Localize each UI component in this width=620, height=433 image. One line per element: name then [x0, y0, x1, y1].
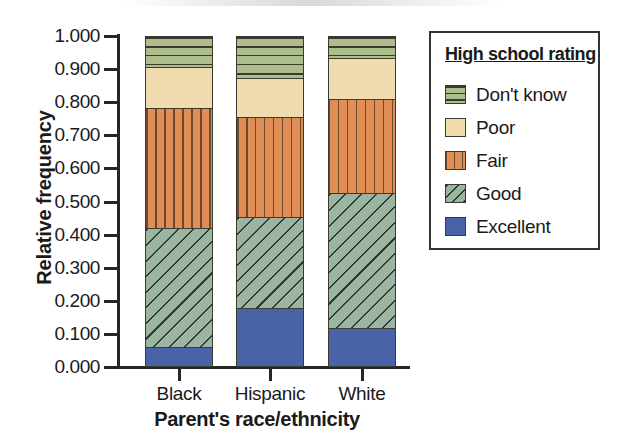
y-tick-label: 0.900: [34, 58, 100, 80]
y-tick-label: 0.300: [34, 257, 100, 279]
y-tick-label: 0.700: [34, 124, 100, 146]
chart-legend: High school rating Don't know Poor Fair …: [429, 31, 600, 250]
y-tick-label: 0.200: [34, 290, 100, 312]
legend-swatch-excellent-icon: [445, 217, 466, 236]
x-axis-label: Parent's race/ethnicity: [104, 408, 410, 431]
y-tick-label: 0.000: [34, 356, 100, 378]
legend-item-poor[interactable]: Poor: [445, 111, 598, 144]
y-tick-label: 0.800: [34, 91, 100, 113]
legend-item-excellent[interactable]: Excellent: [445, 210, 598, 243]
bar-hispanic[interactable]: [236, 36, 304, 367]
segment-white-dont-know[interactable]: [329, 37, 395, 59]
y-tick-label: 0.100: [34, 323, 100, 345]
legend-title: High school rating: [445, 44, 598, 65]
segment-black-good[interactable]: [146, 229, 212, 348]
scan-artifact: [120, 0, 500, 6]
y-tick-mark: [104, 300, 118, 303]
y-tick-label: 0.400: [34, 224, 100, 246]
y-tick-mark: [104, 101, 118, 104]
bar-black[interactable]: [145, 36, 213, 367]
y-tick-mark: [104, 333, 118, 336]
segment-black-dont-know[interactable]: [146, 37, 212, 68]
segment-hispanic-poor[interactable]: [237, 79, 303, 118]
legend-item-dont-know[interactable]: Don't know: [445, 78, 598, 111]
segment-hispanic-fair[interactable]: [237, 118, 303, 218]
y-tick-label: 0.600: [34, 157, 100, 179]
segment-black-fair[interactable]: [146, 109, 212, 229]
legend-label-poor: Poor: [476, 117, 515, 139]
segment-hispanic-good[interactable]: [237, 218, 303, 309]
legend-item-fair[interactable]: Fair: [445, 144, 598, 177]
y-tick-mark: [104, 68, 118, 71]
segment-white-poor[interactable]: [329, 59, 395, 100]
segment-black-poor[interactable]: [146, 68, 212, 109]
y-tick-mark: [104, 167, 118, 170]
legend-label-good: Good: [476, 183, 521, 205]
y-tick-mark: [104, 134, 118, 137]
x-tick-label-white: White: [302, 383, 422, 405]
segment-hispanic-dont-know[interactable]: [237, 37, 303, 79]
segment-hispanic-excellent[interactable]: [237, 309, 303, 367]
legend-swatch-fair-icon: [445, 151, 466, 170]
segment-black-excellent[interactable]: [146, 348, 212, 367]
y-tick-mark: [104, 35, 118, 38]
legend-swatch-good-icon: [445, 184, 466, 203]
stacked-bar-chart: Relative frequency 0.000 0.100 0.200 0.3…: [0, 0, 620, 433]
bar-white[interactable]: [328, 36, 396, 367]
x-tick-mark: [178, 369, 181, 381]
legend-label-fair: Fair: [476, 150, 508, 172]
legend-item-good[interactable]: Good: [445, 177, 598, 210]
x-tick-mark: [361, 369, 364, 381]
legend-label-dont-know: Don't know: [476, 84, 566, 106]
legend-label-excellent: Excellent: [476, 216, 550, 238]
y-tick-label: 0.500: [34, 191, 100, 213]
y-tick-mark: [104, 366, 118, 369]
y-tick-mark: [104, 234, 118, 237]
segment-white-excellent[interactable]: [329, 329, 395, 367]
segment-white-good[interactable]: [329, 194, 395, 329]
y-tick-label: 1.000: [34, 25, 100, 47]
segment-white-fair[interactable]: [329, 100, 395, 194]
y-tick-mark: [104, 201, 118, 204]
legend-swatch-dont-know-icon: [445, 85, 466, 104]
x-tick-mark: [269, 369, 272, 381]
y-tick-mark: [104, 267, 118, 270]
y-axis-tick-labels: 0.000 0.100 0.200 0.300 0.400 0.500 0.60…: [34, 36, 100, 367]
legend-swatch-poor-icon: [445, 118, 466, 137]
